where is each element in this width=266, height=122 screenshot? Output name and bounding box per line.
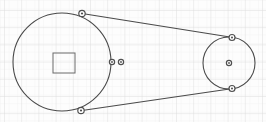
rim-marker-outer-dot [120,61,122,63]
center-marker-small-pulley-dot [228,62,230,64]
rim-marker-inner-dot [111,61,113,63]
tangent-marker-small-bottom-dot [231,88,233,90]
tangent-marker-large-bottom-dot [80,109,82,111]
tangent-marker-large-top-dot [81,12,83,14]
pulley-diagram-canvas [0,0,266,122]
tangent-marker-small-top-dot [231,37,233,39]
pulley-diagram-svg [0,0,266,122]
